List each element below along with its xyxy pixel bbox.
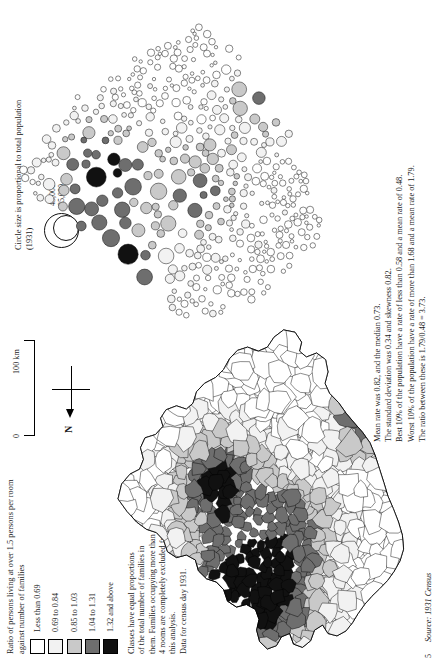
cartogram-circle [215, 236, 222, 243]
cartogram-circle [272, 119, 280, 127]
cartogram-circle [181, 80, 187, 86]
cartogram-circle [59, 185, 69, 195]
cartogram-circle [210, 115, 216, 121]
cartogram-circle [108, 153, 120, 165]
cartogram-circle [253, 92, 266, 105]
cartogram-circle [307, 206, 314, 213]
cartogram-circle [138, 99, 146, 107]
cartogram-circle [164, 42, 171, 49]
cartogram-circle [112, 188, 122, 198]
cartogram-circle [118, 103, 123, 108]
cartogram-circle [236, 55, 241, 60]
scale-label-zero: 0 [12, 434, 21, 438]
cartogram-circle [294, 174, 299, 179]
cartogram-circle [249, 265, 256, 272]
cartogram-circle [229, 196, 235, 202]
cartogram-circle [252, 177, 260, 185]
cartogram-circle [190, 299, 194, 303]
cartogram-circle [260, 181, 266, 187]
cartogram-circle [211, 53, 214, 56]
cartogram-circle [269, 202, 275, 208]
cartogram-circle [140, 68, 146, 74]
cartogram-circle [203, 133, 210, 140]
stat-line: The ratio between these is 1.79/0.48 = 3… [417, 12, 428, 442]
cartogram-circle [239, 122, 250, 133]
cartogram-circle [204, 139, 216, 151]
cartogram-circle [226, 220, 232, 226]
cartogram-circle [137, 269, 153, 285]
cartogram-circle [210, 186, 220, 196]
cartogram-circle [69, 134, 75, 140]
cartogram-circle [285, 221, 293, 229]
cartogram-circle [101, 87, 107, 93]
key-class-label-1: Less than 0.69 [33, 584, 42, 632]
cartogram-circle [281, 269, 285, 273]
cartogram-circle [224, 197, 229, 202]
cartogram-circle [102, 137, 109, 144]
cartogram-circle [181, 116, 186, 121]
cartogram-circle [165, 274, 174, 283]
cartogram-circle [317, 224, 320, 227]
cartogram-circle [195, 76, 200, 81]
cartogram-circle [259, 160, 263, 164]
cartogram-circle [139, 60, 142, 63]
cartogram-circle [224, 87, 229, 92]
cartogram-circle [231, 132, 238, 139]
cartogram-circle [200, 164, 210, 174]
cartogram-circle [113, 169, 122, 178]
cartogram-circle [176, 123, 187, 134]
cartogram-circle [213, 71, 221, 79]
cartogram-circle [214, 61, 218, 65]
cartogram-circle [207, 153, 218, 164]
cartogram-circle [39, 174, 45, 180]
cartogram-circle [250, 114, 260, 124]
cartogram-circle [207, 91, 216, 100]
cartogram-circle [69, 198, 85, 214]
cartogram-circle [287, 263, 292, 268]
cartogram-circle [204, 106, 208, 110]
cartogram-circle [194, 252, 201, 259]
cartogram-circle [242, 220, 250, 228]
key-class-label-5: 1.32 and above [106, 582, 115, 632]
cartogram-circle [97, 195, 108, 206]
cartogram-circle [167, 77, 172, 82]
cartogram-circle [230, 228, 234, 232]
cartogram-circle [207, 245, 212, 250]
cartogram-circle [174, 112, 182, 120]
cartogram-circle [27, 167, 34, 174]
cartogram-circle [171, 170, 186, 185]
cartogram-circle [219, 274, 225, 280]
cartogram-circle [127, 126, 132, 131]
cartogram-circle [201, 83, 205, 87]
key-swatch-5 [103, 639, 118, 654]
cartogram-circle [230, 253, 234, 257]
cartogram-circle [97, 95, 103, 101]
cartogram-circle [191, 29, 195, 33]
scale-bar-graphic: 0 100 km [22, 340, 35, 436]
district-polygon [233, 440, 249, 457]
cartogram-circle [296, 192, 301, 197]
cartogram-circle [270, 257, 275, 262]
cartogram-circle [135, 82, 141, 88]
cartogram-circle [160, 156, 166, 162]
cartogram-circle [286, 252, 293, 259]
statistics-block: Mean rate was 0.82, and the median 0.73.… [372, 12, 428, 442]
cartogram-circle [184, 312, 190, 318]
cartogram-circle [189, 77, 195, 83]
key-class-label-2: 0.69 to 0.84 [51, 593, 60, 632]
cartogram-circle [197, 128, 203, 134]
cartogram-circle [214, 46, 217, 49]
cartogram-circle [270, 213, 274, 217]
cartogram-circle [197, 245, 205, 253]
cartogram-circle [213, 203, 220, 210]
cartogram-circle [310, 243, 315, 248]
cartogram-circle [215, 164, 223, 172]
stat-line: Best 10% of the population have a rate o… [394, 12, 405, 442]
cartogram-circle [219, 260, 223, 264]
cartogram-circle [280, 199, 286, 205]
cartogram-circle [176, 41, 180, 45]
cartogram-circle [134, 97, 139, 102]
cartogram-circle [163, 86, 167, 90]
cartogram-circle [205, 275, 210, 280]
cartogram-circle [99, 103, 105, 109]
